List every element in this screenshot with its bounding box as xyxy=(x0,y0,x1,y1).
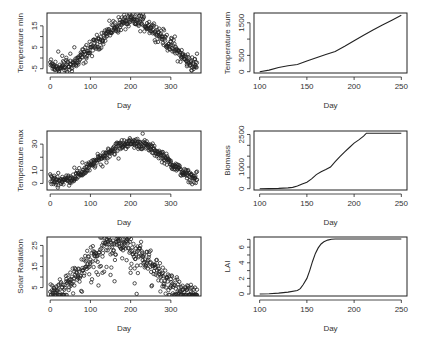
lai-series xyxy=(260,239,402,294)
tmin-x-axis-title: Day xyxy=(117,101,131,110)
lai-plot-frame xyxy=(254,237,407,296)
y-tick-label: 15 xyxy=(30,21,39,30)
y-tick-label: 25 xyxy=(30,240,39,249)
biomass-series xyxy=(260,133,402,189)
y-tick-label: 6 xyxy=(237,244,246,249)
tmax-x-axis-title: Day xyxy=(117,218,131,227)
x-tick-label: 200 xyxy=(124,82,138,91)
lai-x-axis-title: Day xyxy=(323,324,337,333)
x-tick-label: 200 xyxy=(347,82,361,91)
x-tick-label: 0 xyxy=(48,82,53,91)
panel-radiation: 0100200300Day51525Solar Radiation xyxy=(16,236,201,333)
y-tick-label: 0 xyxy=(30,181,39,186)
x-tick-label: 100 xyxy=(253,82,267,91)
y-tick-label: 500 xyxy=(237,48,246,62)
y-tick-label: 2500 xyxy=(237,125,246,143)
radiation-x-axis-title: Day xyxy=(117,324,131,333)
x-tick-label: 250 xyxy=(395,82,409,91)
x-tick-label: 300 xyxy=(164,82,178,91)
x-tick-label: 200 xyxy=(124,199,138,208)
y-tick-label: 2 xyxy=(237,276,246,281)
x-tick-label: 150 xyxy=(300,305,314,314)
y-tick-label: -5 xyxy=(30,65,39,73)
x-tick-label: 200 xyxy=(124,305,138,314)
tmax-y-axis-title: Temperature max xyxy=(16,129,25,191)
y-tick-label: 0 xyxy=(237,69,246,74)
y-tick-label: 30 xyxy=(30,139,39,148)
x-tick-label: 100 xyxy=(84,199,98,208)
x-tick-label: 250 xyxy=(395,305,409,314)
y-tick-label: 15 xyxy=(30,262,39,271)
panel-biomass: 100150200250Day010002500Biomass xyxy=(223,125,409,227)
x-tick-label: 150 xyxy=(300,82,314,91)
x-tick-label: 0 xyxy=(48,199,53,208)
tsum-y-axis-title: Temperature sum xyxy=(223,12,232,75)
panel-tmax: 0100200300Day01030Temperature max xyxy=(16,129,201,227)
y-tick-label: 4 xyxy=(237,260,246,265)
x-tick-label: 0 xyxy=(48,305,53,314)
x-tick-label: 250 xyxy=(395,199,409,208)
x-tick-label: 300 xyxy=(164,199,178,208)
radiation-series xyxy=(49,236,199,297)
x-tick-label: 100 xyxy=(84,82,98,91)
y-tick-label: 10 xyxy=(30,165,39,174)
y-tick-label: 0 xyxy=(237,291,246,296)
tmin-y-axis-title: Temperature min xyxy=(16,13,25,73)
y-tick-label: 1500 xyxy=(237,13,246,31)
y-tick-label: 1000 xyxy=(237,158,246,176)
tmax-series xyxy=(49,132,199,189)
y-tick-label: 5 xyxy=(30,45,39,50)
x-tick-label: 100 xyxy=(253,199,267,208)
panel-lai: 100150200250Day0246LAI xyxy=(223,237,409,333)
x-tick-label: 200 xyxy=(347,199,361,208)
panel-tsum: 100150200250Day05001500Temperature sum xyxy=(223,12,409,110)
lai-y-axis-title: LAI xyxy=(223,260,232,272)
x-tick-label: 100 xyxy=(253,305,267,314)
x-tick-label: 100 xyxy=(84,305,98,314)
plot-grid: 0100200300Day-5515Temperature min1001502… xyxy=(0,0,425,347)
biomass-y-axis-title: Biomass xyxy=(223,145,232,176)
y-tick-label: 5 xyxy=(30,285,39,290)
biomass-x-axis-title: Day xyxy=(323,218,337,227)
x-tick-label: 150 xyxy=(300,199,314,208)
x-tick-label: 200 xyxy=(347,305,361,314)
x-tick-label: 300 xyxy=(164,305,178,314)
tsum-x-axis-title: Day xyxy=(323,101,337,110)
radiation-y-axis-title: Solar Radiation xyxy=(16,239,25,294)
tsum-plot-frame xyxy=(254,13,407,73)
y-tick-label: 0 xyxy=(237,186,246,191)
tsum-series xyxy=(260,15,402,71)
biomass-plot-frame xyxy=(254,131,407,190)
panel-tmin: 0100200300Day-5515Temperature min xyxy=(16,12,201,110)
tmin-series xyxy=(49,12,199,74)
